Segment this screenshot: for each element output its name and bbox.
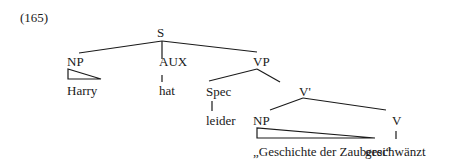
node-spec: Spec [206,85,231,99]
node-v: V [392,114,401,128]
np-subject-triangle [68,69,101,79]
node-vp: VP [253,55,270,69]
node-np-object: NP [253,114,270,128]
edge-vp-spec [209,69,257,81]
leaf-leider: leider [206,114,236,128]
np-object-triangle [257,128,375,138]
edge-s-np [79,41,162,53]
edge-vbar-v [303,98,386,110]
tree-lines [0,0,457,160]
leaf-harry: Harry [67,84,97,98]
node-v-bar: V' [299,85,311,99]
edge-vp-vbar [257,69,280,82]
node-np-subject: NP [67,55,84,69]
node-aux: AUX [159,55,187,69]
leaf-hat: hat [159,84,175,98]
leaf-geschwaenzt: geschwänzt [365,145,426,159]
node-s: S [157,26,164,40]
edge-vbar-np [270,98,303,110]
example-number: (165) [20,11,48,25]
edge-s-vp [162,41,257,52]
